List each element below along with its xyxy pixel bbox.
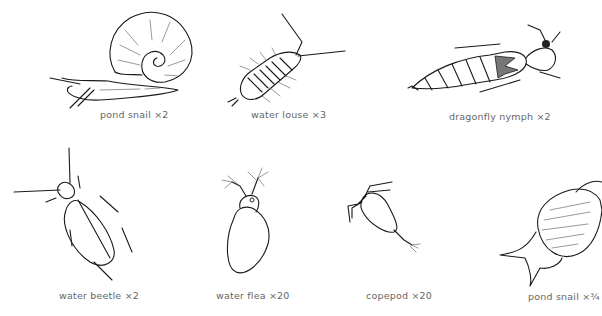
- water-louse-illustration: [228, 14, 345, 106]
- water-flea-illustration: [222, 168, 269, 273]
- caption-dragonfly-nymph: dragonfly nymph ×2: [449, 111, 551, 122]
- copepod-illustration: [348, 182, 420, 252]
- caption-water-beetle: water beetle ×2: [59, 290, 139, 301]
- pond-snail-small-illustration: [500, 181, 602, 286]
- caption-water-flea: water flea ×20: [216, 290, 290, 301]
- caption-pond-snail-x3-4: pond snail ×¾: [528, 291, 600, 302]
- dragonfly-nymph-illustration: [408, 25, 560, 92]
- caption-pond-snail-x2: pond snail ×2: [100, 109, 169, 120]
- caption-water-louse: water louse ×3: [251, 109, 326, 120]
- pond-animals-figure: pond snail ×2 water louse ×3 dragonfly n…: [0, 0, 602, 316]
- pond-snail-illustration: [50, 12, 192, 108]
- water-beetle-illustration: [14, 148, 132, 280]
- illustrations: [0, 0, 602, 316]
- caption-copepod: copepod ×20: [366, 290, 432, 301]
